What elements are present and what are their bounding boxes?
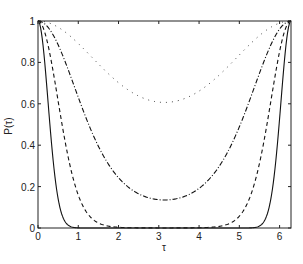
y-axis: 00.20.40.60.81	[21, 16, 291, 234]
x-tick-label: 2	[116, 231, 122, 242]
x-tick-label: 0	[35, 231, 41, 242]
x-tick-label: 3	[156, 231, 162, 242]
y-tick-label: 0.8	[21, 57, 35, 68]
curve-dash-dot	[38, 21, 291, 200]
curve-solid	[38, 21, 291, 228]
y-tick-label: 0.4	[21, 140, 35, 151]
y-tick-label: 0.6	[21, 99, 35, 110]
y-axis-label: P(τ)	[3, 117, 14, 134]
y-tick-label: 1	[29, 16, 35, 27]
y-tick-label: 0.2	[21, 182, 35, 193]
x-axis: 0123456	[35, 21, 283, 242]
curve-dashed	[38, 21, 291, 228]
x-tick-label: 4	[196, 231, 202, 242]
y-tick-label: 0	[29, 223, 35, 234]
plot-frame	[38, 21, 291, 228]
x-axis-label: τ	[162, 242, 166, 253]
x-tick-label: 1	[75, 231, 81, 242]
x-tick-label: 6	[277, 231, 283, 242]
plot-curves	[38, 21, 291, 228]
x-tick-label: 5	[237, 231, 243, 242]
chart: 0123456 00.20.40.60.81 τ P(τ)	[0, 0, 303, 264]
